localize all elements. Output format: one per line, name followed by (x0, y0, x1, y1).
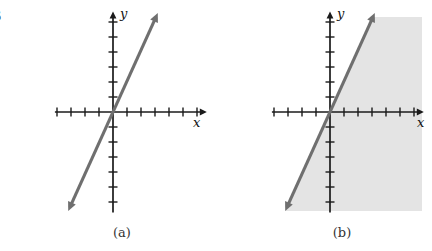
graphs-canvas (0, 0, 432, 251)
graph-panel-a (55, 12, 207, 213)
shaded-solution-region (285, 17, 422, 211)
caption-panel-a: (a) (100, 225, 144, 240)
panel-b-x-axis-label: x (417, 116, 424, 129)
graph-panel-b (272, 12, 424, 213)
panel-b-y-axis-label: y (337, 7, 344, 20)
caption-panel-b: (b) (320, 225, 364, 240)
panel-a-y-axis-label: y (120, 7, 127, 20)
panel-a-x-axis-label: x (193, 116, 200, 129)
figure: 3 y x y x (a) (b) (0, 0, 432, 251)
